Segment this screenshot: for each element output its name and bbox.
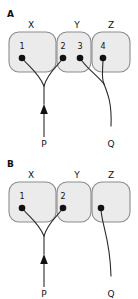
panel-a-endpoint-label-q: Q [107, 139, 114, 149]
panel-b-node-label-1: 1 [19, 192, 24, 201]
panel-a-node-dot-1[interactable] [19, 55, 26, 62]
panel-a-letter: A [7, 9, 14, 19]
panel-a-node-label-3: 3 [77, 42, 82, 51]
panel-a-arrow-head-p [40, 104, 48, 114]
panel-b-letter: B [7, 159, 14, 169]
panel-b-box-z [92, 182, 130, 222]
panel-b-compartment-label-z: Z [108, 170, 114, 180]
panel-b-compartment-label-x: X [28, 170, 34, 180]
panel-a-merged-stem-q [104, 84, 111, 126]
figure-container: A X Y Z 1 2 3 [0, 0, 138, 299]
panel-b-box-x [9, 182, 56, 222]
panel-b-box-y [57, 182, 91, 222]
panel-a-compartment-label-y: Y [73, 20, 80, 30]
panel-a-endpoint-label-p: P [41, 139, 47, 149]
panel-a-node-label-1: 1 [19, 42, 24, 51]
panel-b-endpoint-label-q: Q [107, 289, 114, 299]
panel-a-node-dot-3[interactable] [77, 55, 84, 62]
panel-b-compartment-label-y: Y [73, 170, 80, 180]
panel-a: A X Y Z 1 2 3 [7, 9, 130, 149]
panel-b-node-dot-1[interactable] [19, 205, 26, 212]
panel-b-arrow-head-p [40, 254, 48, 264]
panel-a-node-label-2: 2 [60, 42, 65, 51]
panel-b-node-dot-2[interactable] [60, 205, 67, 212]
panel-a-node-label-4: 4 [100, 42, 105, 51]
panel-a-box-x [9, 32, 56, 72]
panel-b-node-label-2: 2 [60, 192, 65, 201]
panel-b: B X Y Z 1 2 P Q [7, 159, 130, 299]
panel-a-box-z [92, 32, 130, 72]
panel-b-endpoint-label-p: P [41, 289, 47, 299]
panel-b-node-dot-3[interactable] [98, 205, 105, 212]
diagram-canvas: A X Y Z 1 2 3 [0, 0, 138, 299]
panel-a-node-dot-4[interactable] [100, 55, 107, 62]
panel-a-node-dot-2[interactable] [60, 55, 67, 62]
panel-a-compartment-label-z: Z [108, 20, 114, 30]
panel-a-compartment-label-x: X [28, 20, 34, 30]
